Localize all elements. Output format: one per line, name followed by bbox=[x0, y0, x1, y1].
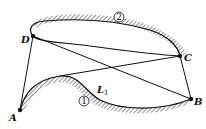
label-A: A bbox=[8, 112, 17, 123]
label-D: D bbox=[20, 34, 30, 45]
point-D bbox=[31, 34, 35, 38]
label-L1: L1 bbox=[96, 84, 109, 97]
label-L1-subscript: 1 bbox=[104, 89, 108, 97]
path-1-marker: 1 bbox=[81, 96, 87, 106]
segment-hump-C bbox=[60, 56, 180, 76]
point-B bbox=[189, 97, 193, 101]
point-A bbox=[18, 108, 22, 112]
label-C: C bbox=[184, 52, 192, 63]
diagram: A B C D L1 1 2 bbox=[0, 0, 206, 129]
label-L1-main: L bbox=[96, 84, 104, 95]
path-2-marker: 2 bbox=[116, 12, 122, 22]
label-B: B bbox=[193, 96, 202, 107]
path-2-curve bbox=[31, 20, 180, 56]
point-C bbox=[178, 54, 182, 58]
